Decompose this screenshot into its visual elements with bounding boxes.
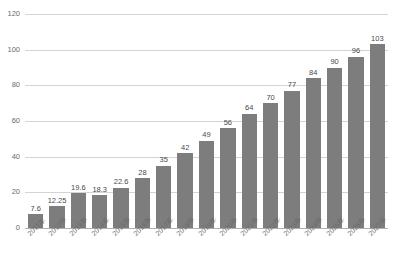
bar-value-label: 56 [224, 119, 232, 127]
bar-slot: 35 [153, 14, 174, 228]
bar-value-label: 22.6 [114, 178, 129, 186]
bar[interactable] [327, 68, 342, 229]
y-axis-tick-label: 120 [7, 10, 20, 18]
bar[interactable] [306, 78, 321, 228]
bar-value-label: 7.6 [30, 205, 40, 213]
bar[interactable] [263, 103, 278, 228]
bar-chart: 020406080100120 7.612.2519.618.322.62835… [0, 0, 398, 268]
bar-slot: 22.6 [110, 14, 131, 228]
bar-slot: 19.6 [68, 14, 89, 228]
bar-slot: 96 [345, 14, 366, 228]
bar-value-label: 64 [245, 104, 253, 112]
bar-value-label: 18.3 [92, 186, 107, 194]
bar-slot: 49 [196, 14, 217, 228]
y-axis-tick-label: 0 [16, 224, 20, 232]
bar-value-label: 103 [371, 35, 384, 43]
bar[interactable] [348, 57, 363, 228]
bar-slot: 42 [174, 14, 195, 228]
bar-slot: 56 [217, 14, 238, 228]
bar[interactable] [284, 91, 299, 228]
y-axis-tick-label: 60 [12, 117, 20, 125]
bar-value-label: 12.25 [48, 197, 67, 205]
bar-slot: 77 [281, 14, 302, 228]
bar-value-label: 77 [288, 81, 296, 89]
bar-value-label: 96 [352, 47, 360, 55]
bar-value-label: 35 [160, 156, 168, 164]
bar[interactable] [199, 141, 214, 228]
bar-slot: 103 [367, 14, 388, 228]
bar-value-label: 28 [138, 169, 146, 177]
bar-value-label: 19.6 [71, 184, 86, 192]
plot-area: 020406080100120 7.612.2519.618.322.62835… [25, 14, 388, 228]
bar[interactable] [370, 44, 385, 228]
bar-value-label: 49 [202, 131, 210, 139]
bar-value-label: 70 [266, 94, 274, 102]
y-axis-tick-label: 100 [7, 46, 20, 54]
bar-slot: 18.3 [89, 14, 110, 228]
bar-slot: 90 [324, 14, 345, 228]
bar[interactable] [220, 128, 235, 228]
bar-slot: 28 [132, 14, 153, 228]
bar-value-label: 90 [330, 58, 338, 66]
y-axis-tick-label: 20 [12, 189, 20, 197]
bar-slot: 7.6 [25, 14, 46, 228]
y-axis-tick-label: 40 [12, 153, 20, 161]
bars-group: 7.612.2519.618.322.628354249566470778490… [25, 14, 388, 228]
bar-slot: 84 [303, 14, 324, 228]
bar[interactable] [242, 114, 257, 228]
bar-value-label: 42 [181, 144, 189, 152]
bar-slot: 12.25 [46, 14, 67, 228]
y-axis-tick-label: 80 [12, 82, 20, 90]
bar-value-label: 84 [309, 69, 317, 77]
bar-slot: 64 [239, 14, 260, 228]
bar-slot: 70 [260, 14, 281, 228]
